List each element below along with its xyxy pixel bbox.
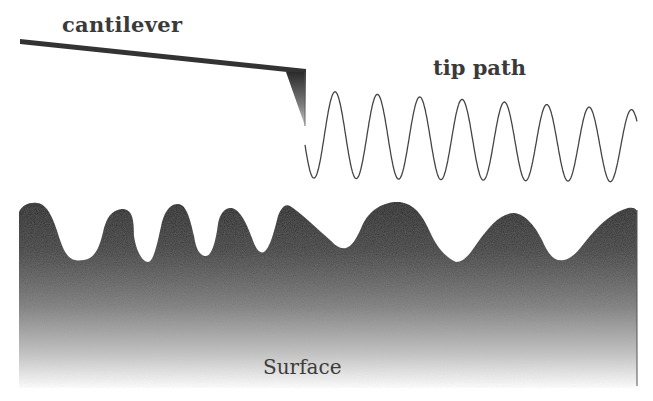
cantilever-beam xyxy=(20,39,306,74)
afm-tip xyxy=(286,72,306,126)
tip-path-wave xyxy=(305,92,637,182)
cantilever xyxy=(20,39,306,74)
tip-triangle xyxy=(286,72,306,126)
cantilever-label: cantilever xyxy=(62,12,182,37)
tip-path-label: tip path xyxy=(433,55,526,80)
diagram-canvas xyxy=(0,0,653,401)
afm-diagram: cantilever tip path Surface xyxy=(0,0,653,401)
surface-label: Surface xyxy=(263,355,342,379)
